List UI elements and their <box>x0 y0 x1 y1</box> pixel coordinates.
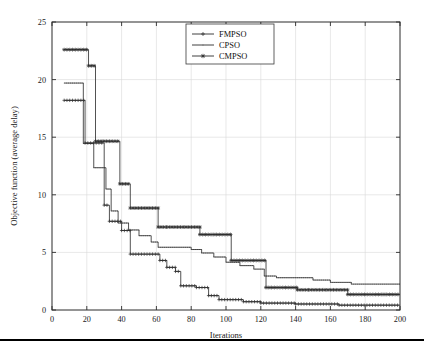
series-marker-dot <box>85 143 86 144</box>
series-marker-dot <box>108 189 109 190</box>
series-marker-dot <box>95 167 96 168</box>
x-tick-label: 160 <box>324 315 336 324</box>
series-marker-dot <box>136 229 137 230</box>
series-marker-dot <box>226 262 227 263</box>
series-marker-dot <box>155 242 156 243</box>
series-marker-dot <box>270 276 271 277</box>
series-marker-dot <box>153 242 154 243</box>
series-marker-dot <box>361 284 362 285</box>
series-marker-dot <box>164 247 165 248</box>
series-marker-dot <box>355 284 356 285</box>
series-marker-dot <box>134 229 135 230</box>
series-marker-dot <box>253 269 254 270</box>
series-marker-dot <box>357 284 358 285</box>
series-marker-dot <box>100 167 101 168</box>
series-marker-dot <box>191 249 192 250</box>
series-marker-asterisk <box>198 225 202 229</box>
x-tick-label: 40 <box>118 315 126 324</box>
series-marker-dot <box>87 143 88 144</box>
series-marker-dot <box>203 253 204 254</box>
chart-legend[interactable]: FMPSOCPSOCMPSO <box>186 24 274 64</box>
series-marker-dot <box>340 282 341 283</box>
series-marker-asterisk <box>126 182 130 186</box>
series-marker-dot <box>246 265 247 266</box>
series-marker-asterisk <box>116 139 120 143</box>
series-marker-dot <box>291 277 292 278</box>
series-marker-dot <box>201 249 202 250</box>
series-marker-dot <box>128 223 129 224</box>
series-marker-dot <box>255 269 256 270</box>
x-tick-label: 180 <box>359 315 371 324</box>
series-marker-dot <box>386 284 387 285</box>
series-marker-dot <box>264 269 265 270</box>
series-marker-dot <box>130 229 131 230</box>
series-marker-dot <box>299 277 300 278</box>
series-marker-dot <box>345 282 346 283</box>
series-marker-dot <box>195 249 196 250</box>
series-marker-dot <box>372 284 373 285</box>
series-marker-dot <box>147 235 148 236</box>
series-marker-dot <box>359 284 360 285</box>
series-marker-dot <box>334 282 335 283</box>
series-marker-dot <box>124 223 125 224</box>
series-marker-dot <box>336 282 337 283</box>
series-marker-dot <box>248 265 249 266</box>
objective-function-line-chart: 020406080100120140160180200 0510152025 I… <box>0 0 424 349</box>
x-tick-label: 80 <box>187 315 195 324</box>
series-marker-dot <box>365 284 366 285</box>
series-marker-dot <box>162 247 163 248</box>
series-marker-dot <box>66 83 67 84</box>
series-marker-dot <box>228 262 229 263</box>
series-marker-dot <box>239 265 240 266</box>
series-marker-dot <box>330 282 331 283</box>
series-marker-dot <box>80 83 81 84</box>
series-marker-dot <box>97 167 98 168</box>
series-marker-dot <box>303 277 304 278</box>
series-marker-dot <box>93 167 94 168</box>
series-marker-dot <box>282 277 283 278</box>
series-marker-asterisk <box>201 54 205 58</box>
series-marker-dot <box>174 247 175 248</box>
series-marker-dot <box>189 247 190 248</box>
series-marker-dot <box>391 284 392 285</box>
series-marker-dot <box>319 280 320 281</box>
series-marker-dot <box>323 280 324 281</box>
series-marker-dot <box>393 284 394 285</box>
series-marker-dot <box>213 257 214 258</box>
series-marker-asterisk <box>156 206 160 210</box>
series-marker-dot <box>203 45 204 46</box>
series-marker-asterisk <box>396 293 400 297</box>
series-marker-dot <box>276 277 277 278</box>
series-marker-dot <box>376 284 377 285</box>
series-marker-dot <box>151 242 152 243</box>
series-marker-dot <box>207 253 208 254</box>
series-marker-dot <box>113 210 114 211</box>
series-marker-dot <box>93 143 94 144</box>
series-marker-dot <box>105 189 106 190</box>
page-footer-rule <box>0 339 424 341</box>
series-marker-dot <box>349 282 350 283</box>
series-marker-dot <box>72 83 73 84</box>
series-marker-dot <box>128 229 129 230</box>
series-marker-dot <box>139 229 140 230</box>
series-marker-dot <box>68 83 69 84</box>
series-marker-dot <box>160 247 161 248</box>
series-marker-dot <box>201 253 202 254</box>
series-marker-dot <box>262 269 263 270</box>
series-marker-dot <box>117 210 118 211</box>
series-marker-asterisk <box>263 259 267 263</box>
series-marker-dot <box>183 247 184 248</box>
series-marker-dot <box>120 223 121 224</box>
series-marker-dot <box>305 277 306 278</box>
series-marker-dot <box>70 83 71 84</box>
series-marker-dot <box>118 223 119 224</box>
x-tick-label: 20 <box>83 315 91 324</box>
series-marker-dot <box>284 277 285 278</box>
series-marker-dot <box>382 284 383 285</box>
legend-label: CMPSO <box>219 52 247 61</box>
series-marker-dot <box>260 269 261 270</box>
series-marker-dot <box>289 277 290 278</box>
series-marker-dot <box>244 265 245 266</box>
series-marker-dot <box>363 284 364 285</box>
legend-label: CPSO <box>219 41 240 50</box>
